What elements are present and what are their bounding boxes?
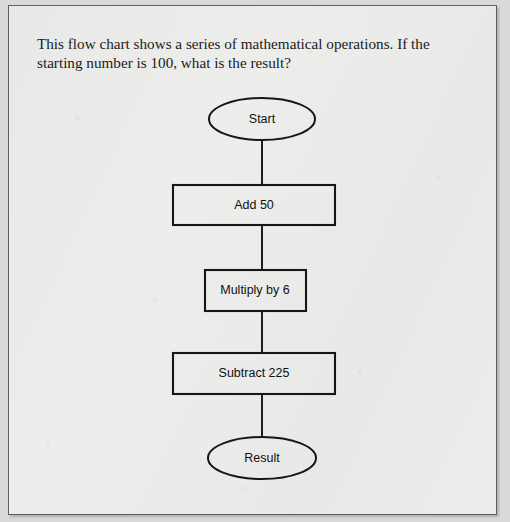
flow-node-subtract[interactable]: Subtract 225: [173, 353, 335, 394]
subtract-label: Subtract 225: [219, 366, 290, 380]
flow-node-multiply[interactable]: Multiply by 6: [205, 270, 306, 311]
result-label: Result: [244, 451, 280, 465]
multiply-label: Multiply by 6: [220, 283, 290, 297]
start-label: Start: [249, 112, 276, 126]
flow-node-add[interactable]: Add 50: [173, 185, 335, 225]
worksheet-page: This flow chart shows a series of mathem…: [8, 5, 497, 515]
screenshot-root: This flow chart shows a series of mathem…: [0, 0, 510, 522]
flow-node-result[interactable]: Result: [208, 437, 316, 479]
flow-node-start[interactable]: Start: [209, 98, 315, 140]
add-label: Add 50: [234, 198, 274, 212]
flowchart-diagram: Start Add 50 Multiply by 6 Subtract 225 …: [9, 6, 498, 516]
